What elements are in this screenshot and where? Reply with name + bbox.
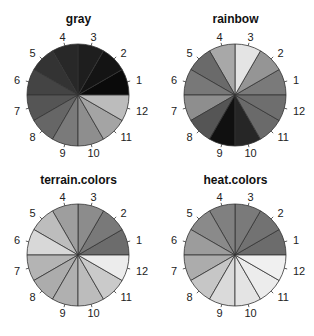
label-tick [284,268,287,269]
label-tick [26,108,29,109]
slice-label: 6 [14,74,20,86]
label-tick [197,131,199,133]
slice-label: 9 [59,307,65,319]
label-tick [248,203,249,206]
slice-label: 12 [136,265,148,277]
label-tick [26,241,29,242]
slice-label: 8 [186,131,192,143]
label-tick [271,217,273,219]
slice-label: 9 [216,147,222,159]
slice-label: 6 [14,234,20,246]
slice-label: 4 [216,191,222,203]
label-tick [91,43,92,46]
slice-label: 3 [90,31,96,43]
label-tick [114,217,116,219]
slice-label: 8 [29,291,35,303]
pie-chart: 123456789101112 [157,0,314,168]
label-tick [221,203,222,206]
pie-panel-gray: gray 123456789101112 [0,0,157,168]
label-tick [127,81,130,82]
slice-label: 10 [244,307,256,319]
label-tick [40,57,42,59]
slice-label: 5 [29,207,35,219]
label-tick [114,57,116,59]
slice-label: 3 [247,31,253,43]
slice-label: 7 [171,105,177,117]
slice-label: 4 [216,31,222,43]
slice-label: 11 [120,131,131,143]
slice-label: 4 [59,31,65,43]
slice-label: 9 [216,307,222,319]
slice-label: 5 [186,47,192,59]
slice-label: 10 [87,147,99,159]
label-tick [183,81,186,82]
label-tick [284,241,287,242]
pie-chart: 123456789101112 [0,0,157,168]
label-tick [127,241,130,242]
label-tick [197,291,199,293]
label-tick [114,291,116,293]
label-tick [284,108,287,109]
label-tick [271,291,273,293]
label-tick [40,131,42,133]
label-tick [26,81,29,82]
label-tick [64,203,65,206]
slice-label: 2 [277,207,283,219]
label-tick [197,57,199,59]
slice-label: 12 [136,105,148,117]
slice-label: 8 [186,291,192,303]
slice-label: 10 [87,307,99,319]
label-tick [40,291,42,293]
label-tick [127,108,130,109]
pie-panel-terrain-colors: terrain.colors 123456789101112 [0,168,157,336]
label-tick [64,43,65,46]
label-tick [284,81,287,82]
slice-label: 12 [293,105,305,117]
slice-label: 2 [120,207,126,219]
label-tick [248,43,249,46]
label-tick [183,268,186,269]
slice-label: 6 [171,234,177,246]
slice-label: 11 [277,291,288,303]
label-tick [221,43,222,46]
slice-label: 9 [59,147,65,159]
label-tick [183,241,186,242]
slice-label: 12 [293,265,305,277]
slice-label: 8 [29,131,35,143]
label-tick [91,203,92,206]
slice-label: 1 [293,234,299,246]
label-tick [271,57,273,59]
slice-label: 4 [59,191,65,203]
slice-label: 2 [277,47,283,59]
label-tick [197,217,199,219]
slice-label: 1 [136,74,142,86]
pie-panel-rainbow: rainbow 123456789101112 [157,0,314,168]
slice-label: 7 [14,265,20,277]
label-tick [114,131,116,133]
slice-label: 3 [247,191,253,203]
slice-label: 2 [120,47,126,59]
label-tick [271,131,273,133]
slice-label: 7 [14,105,20,117]
slice-label: 1 [293,74,299,86]
label-tick [183,108,186,109]
slice-label: 11 [277,131,288,143]
label-tick [26,268,29,269]
pie-chart: 123456789101112 [0,168,157,336]
slice-label: 1 [136,234,142,246]
slice-label: 11 [120,291,131,303]
slice-label: 5 [186,207,192,219]
label-tick [40,217,42,219]
pie-chart: 123456789101112 [157,168,314,336]
label-tick [127,268,130,269]
slice-label: 3 [90,191,96,203]
slice-label: 6 [171,74,177,86]
slice-label: 7 [171,265,177,277]
slice-label: 10 [244,147,256,159]
pie-panel-heat-colors: heat.colors 123456789101112 [157,168,314,336]
slice-label: 5 [29,47,35,59]
